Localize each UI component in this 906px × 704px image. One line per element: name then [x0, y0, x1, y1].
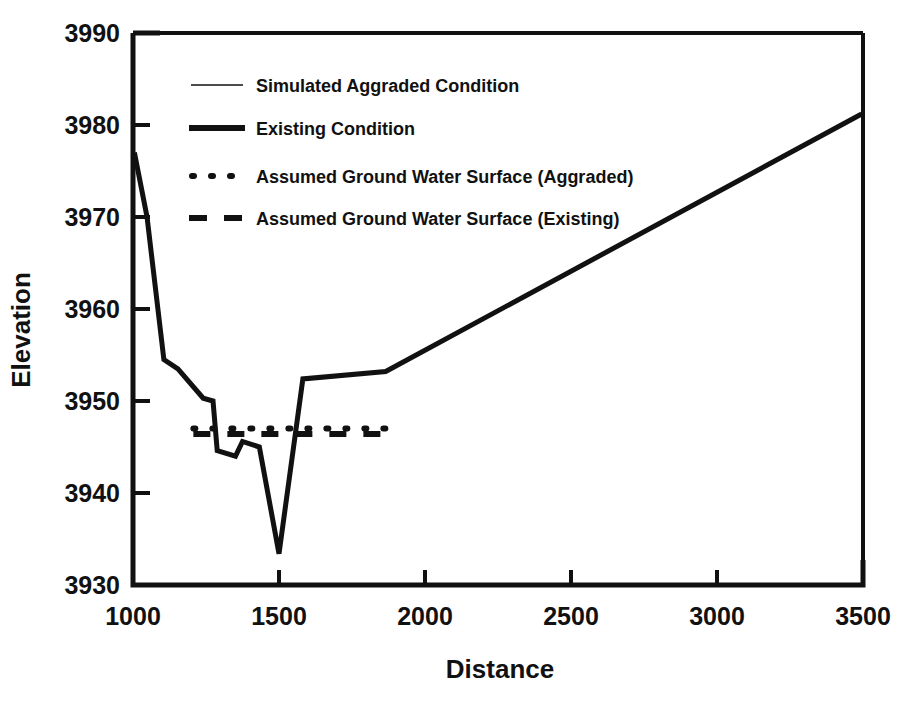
chart-background [0, 0, 906, 704]
x-tick-label-3500: 3500 [835, 602, 891, 630]
legend-label-assumed-ground-water-surface-existing: Assumed Ground Water Surface (Existing) [256, 209, 619, 229]
y-tick-label-3940: 3940 [64, 479, 120, 507]
legend-label-simulated-aggraded-condition: Simulated Aggraded Condition [256, 76, 519, 96]
legend-label-existing-condition: Existing Condition [256, 119, 415, 139]
y-axis-title: Elevation [6, 272, 36, 388]
y-tick-label-3930: 3930 [64, 571, 120, 599]
x-tick-label-2000: 2000 [397, 602, 453, 630]
x-tick-label-1500: 1500 [251, 602, 307, 630]
y-tick-label-3980: 3980 [64, 111, 120, 139]
elevation-distance-line-chart: 3990 3980 3970 3960 3950 3940 3930 1000 … [0, 0, 906, 704]
x-tick-label-1000: 1000 [105, 602, 161, 630]
y-tick-label-3990: 3990 [64, 19, 120, 47]
x-axis-title: Distance [446, 654, 554, 684]
x-tick-label-2500: 2500 [543, 602, 599, 630]
chart-figure: 3990 3980 3970 3960 3950 3940 3930 1000 … [0, 0, 906, 704]
y-tick-label-3960: 3960 [64, 295, 120, 323]
y-tick-label-3950: 3950 [64, 387, 120, 415]
y-tick-label-3970: 3970 [64, 203, 120, 231]
legend-label-assumed-ground-water-surface-aggraded: Assumed Ground Water Surface (Aggraded) [256, 167, 633, 187]
x-tick-label-3000: 3000 [689, 602, 745, 630]
legend-entry-assumed-ground-water-surface-aggraded[interactable]: Assumed Ground Water Surface (Aggraded) [192, 167, 633, 187]
